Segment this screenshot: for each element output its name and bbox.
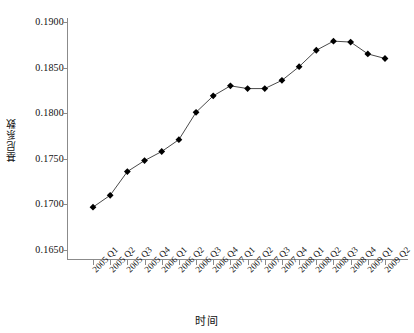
data-point-marker bbox=[175, 136, 182, 143]
y-axis-tick-label: 0.1750 bbox=[18, 154, 64, 164]
data-point-marker bbox=[141, 157, 148, 164]
y-axis-tick-label: 0.1900 bbox=[18, 17, 64, 27]
y-axis-tick-label: 0.1650 bbox=[18, 245, 64, 255]
series-markers bbox=[90, 38, 389, 211]
y-axis-tick-label: 0.1850 bbox=[18, 63, 64, 73]
data-point-marker bbox=[244, 85, 251, 92]
x-axis-title: 时间 bbox=[0, 312, 414, 328]
data-point-marker bbox=[382, 55, 389, 62]
data-point-marker bbox=[227, 82, 234, 89]
data-point-marker bbox=[347, 39, 354, 46]
data-point-marker bbox=[330, 38, 337, 45]
data-point-marker bbox=[107, 192, 114, 199]
y-axis-tick-labels: 0.19000.18500.18000.17500.17000.1650 bbox=[14, 0, 64, 333]
series-line bbox=[93, 41, 385, 207]
y-axis-tick-label: 0.1700 bbox=[18, 199, 64, 209]
line-series-plot bbox=[68, 18, 408, 259]
chart-figure: 基尼系数 0.19000.18500.18000.17500.17000.165… bbox=[0, 0, 414, 333]
data-point-marker bbox=[124, 168, 131, 175]
data-point-marker bbox=[261, 85, 268, 92]
data-point-marker bbox=[90, 204, 97, 211]
data-point-marker bbox=[364, 51, 371, 58]
y-axis-tick-label: 0.1800 bbox=[18, 108, 64, 118]
data-point-marker bbox=[158, 148, 165, 155]
